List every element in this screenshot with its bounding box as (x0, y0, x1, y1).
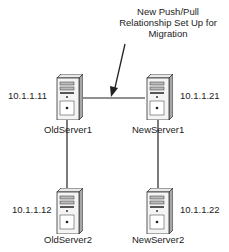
callout-line-1: New Push/Pull (108, 6, 228, 17)
name-label-newserver1: NewServer1 (132, 124, 184, 135)
server-newserver1-icon (143, 74, 173, 120)
server-newserver2-icon (143, 188, 173, 234)
ip-label-oldserver1: 10.1.1.11 (8, 90, 47, 101)
ip-label-oldserver2: 10.1.1.12 (12, 204, 52, 215)
ip-label-newserver1: 10.1.1.21 (180, 90, 220, 101)
ip-label-newserver2: 10.1.1.22 (180, 204, 220, 215)
callout-text: New Push/Pull Relationship Set Up for Mi… (108, 6, 228, 39)
callout-line-2: Relationship Set Up for (108, 17, 228, 28)
name-label-newserver2: NewServer2 (132, 234, 184, 245)
arrow-head-icon (110, 86, 118, 97)
server-oldserver1-icon (53, 74, 83, 120)
name-label-oldserver2: OldServer2 (44, 234, 92, 245)
server-oldserver2-icon (53, 188, 83, 234)
callout-line-3: Migration (108, 28, 228, 39)
name-label-oldserver1: OldServer1 (44, 124, 92, 135)
callout-arrow-line (114, 44, 125, 92)
